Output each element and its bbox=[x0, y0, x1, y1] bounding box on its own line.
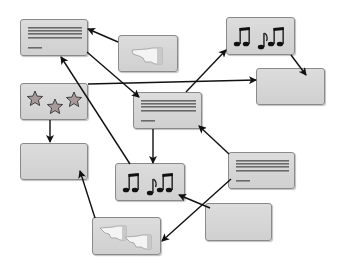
arrow-b-to-a bbox=[88, 29, 118, 42]
node-empty-g bbox=[20, 143, 88, 180]
node-pointing-hand-b bbox=[118, 35, 178, 72]
node-music-c bbox=[226, 17, 295, 55]
node-document-a bbox=[20, 19, 88, 56]
arrow-f-to-c bbox=[186, 50, 226, 92]
arrow-i-to-f bbox=[199, 126, 229, 154]
diagram-canvas bbox=[0, 0, 343, 265]
node-empty-d bbox=[256, 68, 325, 105]
node-stars-e bbox=[20, 83, 88, 120]
node-document-f bbox=[133, 92, 202, 129]
node-music-h bbox=[115, 163, 185, 201]
node-two-pointing-hands-k bbox=[92, 217, 161, 255]
node-empty-j bbox=[205, 203, 272, 241]
arrow-e-to-d bbox=[88, 80, 256, 84]
node-document-i bbox=[228, 152, 295, 189]
